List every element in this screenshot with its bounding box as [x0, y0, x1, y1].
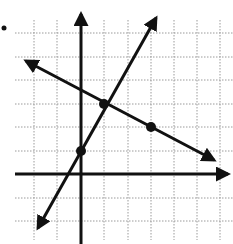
point-0-1 — [76, 146, 86, 156]
point-1-3 — [99, 99, 109, 109]
line-a — [38, 18, 156, 228]
line-b — [26, 61, 214, 160]
graph-canvas — [0, 0, 233, 244]
grid — [15, 20, 233, 240]
bullet-marker — [2, 26, 7, 31]
point-3-2 — [146, 122, 156, 132]
graph-figure — [0, 0, 233, 244]
